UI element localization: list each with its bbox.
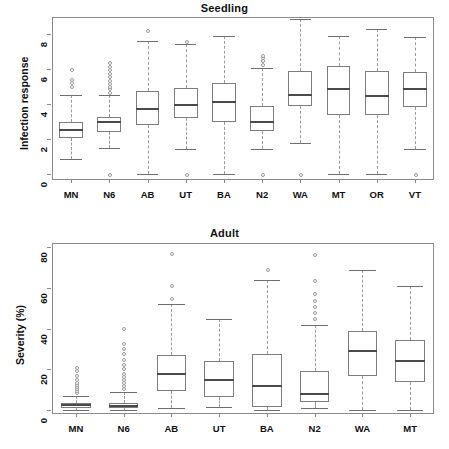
whisker-cap-upper: [206, 319, 233, 320]
whisker-cap-lower: [175, 149, 196, 150]
whisker-upper: [267, 280, 269, 355]
outlier-point: [108, 91, 112, 95]
median-line: [300, 393, 330, 395]
x-tick: [109, 180, 110, 183]
whisker-lower: [415, 107, 417, 150]
whisker-cap-lower: [301, 408, 328, 409]
median-line: [348, 350, 378, 352]
whisker-cap-upper: [328, 36, 349, 37]
whisker-cap-upper: [301, 325, 328, 326]
whisker-lower: [219, 397, 221, 406]
x-tick-label-ba: BA: [204, 189, 244, 200]
box-wa: [288, 71, 312, 106]
outlier-point: [75, 374, 79, 378]
whisker-lower: [148, 125, 150, 174]
x-tick: [315, 414, 316, 417]
panel-title-seedling: Seedling: [0, 2, 449, 14]
x-tick: [262, 180, 263, 183]
whisker-cap-upper: [397, 286, 424, 287]
whisker-lower: [262, 131, 264, 148]
whisker-upper: [224, 36, 226, 83]
whisker-upper: [109, 95, 111, 117]
whisker-upper: [186, 44, 188, 88]
median-line: [157, 373, 187, 375]
outlier-point: [414, 173, 418, 177]
box-ba: [252, 354, 282, 407]
x-tick-label-mt: MT: [319, 189, 359, 200]
whisker-upper: [124, 392, 126, 404]
outlier-point: [70, 85, 74, 89]
whisker-lower: [315, 402, 317, 409]
x-tick: [148, 180, 149, 183]
box-n6: [97, 117, 121, 132]
whisker-upper: [171, 304, 173, 355]
outlier-point: [266, 268, 270, 272]
whisker-lower: [339, 115, 341, 174]
whisker-cap-lower: [397, 410, 424, 411]
x-tick: [171, 414, 172, 417]
x-tick-label-ab: AB: [151, 423, 191, 434]
x-tick-label-ut: UT: [199, 423, 239, 434]
x-tick-label-wa: WA: [342, 423, 382, 434]
outlier-point: [75, 366, 79, 370]
y-tick-label: 6: [38, 69, 49, 91]
whisker-upper: [262, 68, 264, 106]
median-line: [252, 385, 282, 387]
outlier-point: [108, 79, 112, 83]
plot-area-adult: [52, 243, 434, 414]
x-tick: [124, 414, 125, 417]
whisker-cap-upper: [158, 304, 185, 305]
whisker-upper: [71, 95, 73, 122]
box-or: [365, 71, 389, 115]
whisker-upper: [315, 325, 317, 370]
y-tick-label: 0: [38, 409, 49, 431]
outlier-point: [261, 54, 265, 58]
whisker-cap-lower: [290, 143, 311, 144]
whisker-upper: [219, 319, 221, 360]
x-tick: [71, 180, 72, 183]
whisker-cap-lower: [251, 149, 272, 150]
x-tick: [362, 414, 363, 417]
whisker-lower: [109, 132, 111, 148]
outlier-point: [170, 297, 174, 301]
whisker-lower: [186, 118, 188, 149]
whisker-lower: [300, 106, 302, 143]
y-tick-label: 4: [38, 104, 49, 126]
outlier-point: [70, 68, 74, 72]
whisker-cap-lower: [63, 410, 90, 411]
median-line: [174, 104, 198, 106]
y-tick-label: 40: [38, 328, 49, 350]
x-tick: [415, 180, 416, 183]
y-tick-label: 0: [38, 173, 49, 195]
median-line: [212, 101, 236, 103]
whisker-lower: [410, 382, 412, 410]
x-tick-label-mn: MN: [56, 423, 96, 434]
whisker-cap-lower: [158, 408, 185, 409]
panel-seedling: Seedling Infection response 02468MNN6ABU…: [0, 0, 449, 225]
whisker-cap-upper: [254, 280, 281, 281]
whisker-cap-upper: [366, 29, 387, 30]
whisker-lower: [362, 376, 364, 409]
whisker-lower: [377, 115, 379, 174]
x-tick-label-n2: N2: [295, 423, 335, 434]
whisker-cap-upper: [404, 37, 425, 38]
whisker-lower: [224, 122, 226, 173]
whisker-lower: [71, 138, 73, 159]
whisker-cap-upper: [290, 19, 311, 20]
outlier-point: [170, 284, 174, 288]
whisker-upper: [148, 41, 150, 91]
y-tick-label: 80: [38, 247, 49, 269]
whisker-cap-lower: [328, 174, 349, 175]
y-tick-label: 60: [38, 287, 49, 309]
median-line: [250, 121, 274, 123]
y-tick-label: 20: [38, 369, 49, 391]
whisker-cap-upper: [63, 396, 90, 397]
box-wa: [348, 331, 378, 377]
x-tick: [300, 180, 301, 183]
whisker-cap-upper: [175, 44, 196, 45]
x-tick-label-ab: AB: [128, 189, 168, 200]
panel-adult: Adult Severity (%) 020406080MNN6ABUTBAN2…: [0, 225, 449, 449]
box-n2: [250, 106, 274, 131]
whisker-cap-lower: [99, 148, 120, 149]
median-line: [59, 129, 83, 131]
